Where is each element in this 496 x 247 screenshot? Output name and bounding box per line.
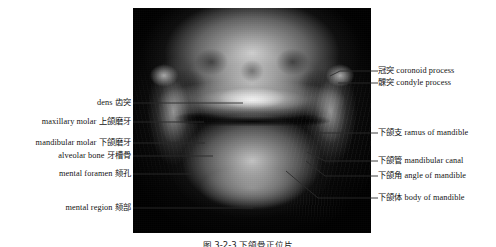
annotation-label-mental-foramen: mental foramen 颏孔 [0,169,131,179]
annotation-label-maxillary-molar: maxillary molar 上颌磨牙 [0,117,131,127]
annotation-label-condyle-process: 髁突 condyle process [378,78,451,88]
radiograph-film-grain [133,8,371,233]
panoramic-radiograph-image [133,8,371,233]
annotation-label-alveolar-bone: alveolar bone 牙槽骨 [0,151,131,161]
annotation-label-angle-of-mandible: 下颌角 angle of mandible [378,171,466,181]
annotation-label-body-of-mandible: 下颌体 body of mandible [378,193,465,203]
annotation-label-ramus-of-mandible: 下颌支 ramus of mandible [378,128,468,138]
figure-root: dens 齿突maxillary molar 上颌磨牙mandibular mo… [0,0,496,247]
annotation-label-mental-region: mental region 颏部 [0,203,131,213]
annotation-label-mandibular-canal: 下颌管 mandibular canal [378,156,463,166]
annotation-label-coronoid-process: 冠突 coronoid process [378,66,454,76]
annotation-label-dens: dens 齿突 [0,98,131,108]
figure-caption: 图 3-2-3 下颌骨正位片 [0,238,496,247]
annotation-label-mandibular-molar: mandibular molar 下颌磨牙 [0,138,131,148]
